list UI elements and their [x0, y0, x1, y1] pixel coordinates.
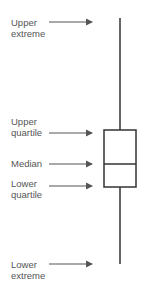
box-plot-figure	[0, 0, 148, 291]
interquartile-box	[104, 130, 136, 187]
